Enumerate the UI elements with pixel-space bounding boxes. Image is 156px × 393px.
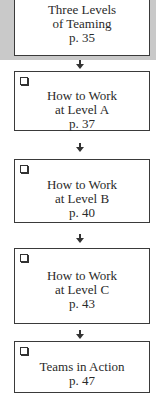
checkbox-icon[interactable] xyxy=(20,347,28,355)
box-line: Teams in Action xyxy=(15,360,149,374)
box-line: How to Work xyxy=(15,178,149,192)
flow-box-teams-in-action[interactable]: Teams in Action p. 47 xyxy=(14,341,150,393)
box-page: p. 43 xyxy=(15,297,149,311)
box-page: p. 47 xyxy=(15,374,149,388)
checkbox-icon[interactable] xyxy=(20,165,28,173)
box-line: How to Work xyxy=(15,269,149,283)
checkbox-icon[interactable] xyxy=(20,254,28,262)
box-line: at Level C xyxy=(15,283,149,297)
box-line: of Teaming xyxy=(15,17,149,31)
box-line: Three Levels xyxy=(15,3,149,17)
box-line: at Level B xyxy=(15,192,149,206)
box-line: at Level A xyxy=(15,103,149,117)
flow-box-three-levels: Three Levels of Teaming p. 35 xyxy=(14,0,150,56)
box-line: How to Work xyxy=(15,89,149,103)
box-page: p. 37 xyxy=(15,117,149,131)
checkbox-icon[interactable] xyxy=(20,77,28,85)
box-page: p. 35 xyxy=(15,31,149,45)
flow-box-level-c[interactable]: How to Work at Level C p. 43 xyxy=(14,248,150,324)
box-page: p. 40 xyxy=(15,206,149,220)
flow-box-level-a[interactable]: How to Work at Level A p. 37 xyxy=(14,71,150,131)
flow-box-level-b[interactable]: How to Work at Level B p. 40 xyxy=(14,159,150,223)
